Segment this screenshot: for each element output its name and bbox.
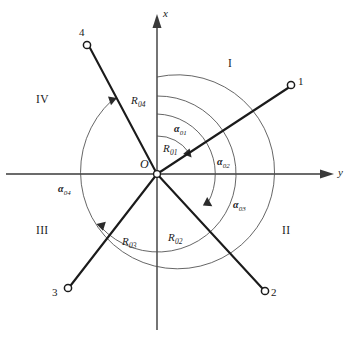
radius-label-r04-sub: 04 xyxy=(138,100,146,109)
angle-label-a03: α03 xyxy=(233,200,246,210)
node-markers-group xyxy=(64,41,294,294)
y-axis-arrowhead xyxy=(320,170,334,179)
radius-label-r04-base: R xyxy=(131,94,138,106)
radius-label-r02-sub: 02 xyxy=(175,237,183,246)
angle-label-a01-base: α xyxy=(174,123,180,134)
quadrant-label-iii: III xyxy=(36,225,48,237)
figure-diagram: x y O I II III IV 1 2 3 4 R01 R02 R03 R0… xyxy=(0,0,355,338)
angle-label-a03-base: α xyxy=(233,199,239,210)
node-marker-2 xyxy=(261,287,268,294)
angle-label-a02-base: α xyxy=(217,156,223,167)
radius-label-r03-sub: 03 xyxy=(129,241,137,250)
node-marker-4 xyxy=(83,41,90,48)
angle-label-a02-sub: 02 xyxy=(223,162,230,170)
quadrant-label-iv: IV xyxy=(36,94,49,106)
radius-label-r03: R03 xyxy=(122,236,136,247)
node-label-3: 3 xyxy=(52,287,58,298)
node-label-2: 2 xyxy=(271,287,277,298)
node-label-1: 1 xyxy=(298,76,304,87)
y-axis-label: y xyxy=(338,167,343,178)
angle-label-a01-sub: 01 xyxy=(180,129,187,137)
radius-label-r01: R01 xyxy=(163,143,177,154)
ray-to-node-3 xyxy=(71,174,157,285)
node-marker-1 xyxy=(287,81,294,88)
radius-label-r01-sub: 01 xyxy=(170,148,178,157)
origin-label: O xyxy=(140,158,149,170)
angle-label-a04-base: α xyxy=(58,183,64,194)
node-marker-3 xyxy=(64,284,71,291)
node-label-4: 4 xyxy=(79,27,85,38)
ray-to-node-4 xyxy=(90,48,157,174)
angle-label-a04-sub: 04 xyxy=(64,189,71,197)
angle-label-a03-sub: 03 xyxy=(239,205,246,213)
arc-alpha-03-arrowhead xyxy=(96,222,105,231)
arc-alpha-02-arrowhead xyxy=(203,197,212,206)
radius-label-r04: R04 xyxy=(131,95,145,106)
radius-label-r03-base: R xyxy=(122,235,129,247)
angle-label-a01: α01 xyxy=(174,124,187,134)
quadrant-label-i: I xyxy=(228,58,232,70)
axes-group xyxy=(6,14,334,330)
angle-label-a02: α02 xyxy=(217,157,230,167)
x-axis-label: x xyxy=(163,8,168,19)
angle-label-a04: α04 xyxy=(58,184,71,194)
radius-label-r02-base: R xyxy=(168,231,175,243)
radius-label-r02: R02 xyxy=(168,232,182,243)
origin-marker xyxy=(154,171,161,178)
radius-label-r01-base: R xyxy=(163,142,170,154)
x-axis-arrowhead xyxy=(153,14,162,28)
quadrant-label-ii: II xyxy=(282,225,290,237)
rays-group xyxy=(71,48,288,288)
